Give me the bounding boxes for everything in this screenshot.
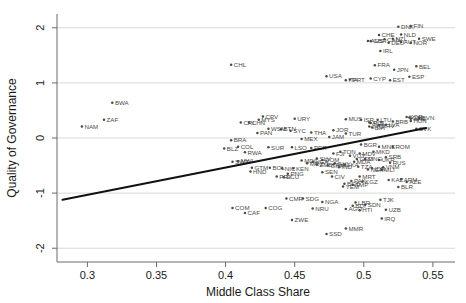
data-point-marker	[321, 171, 324, 174]
data-point-label: BRB	[395, 118, 408, 125]
data-point-label: MMR	[348, 225, 363, 232]
data-point: ZWE	[291, 216, 309, 223]
data-point-label: MDG	[304, 157, 319, 164]
data-point-label: BTN	[283, 125, 295, 132]
data-point-marker	[381, 217, 384, 220]
data-point-marker	[244, 151, 247, 154]
data-point-marker	[269, 167, 272, 170]
data-point: BLZ	[223, 145, 238, 152]
data-point-label: COG	[268, 204, 282, 211]
data-point-marker	[410, 117, 413, 120]
x-tick-label: 0.45	[284, 269, 305, 281]
y-tick-label: -2	[34, 243, 46, 253]
data-point-marker	[345, 132, 348, 135]
data-point-label: NZL	[395, 35, 407, 42]
data-point-label: SSD	[329, 230, 342, 237]
data-point-marker	[354, 201, 357, 204]
data-point-label: NAM	[84, 123, 98, 130]
data-points-layer: BWAZAFNAMCHLCPVPANSYCBRACOLBLZSURLSOPERM…	[81, 22, 436, 237]
data-point-marker	[392, 38, 395, 41]
data-point-marker	[285, 197, 288, 200]
data-point-label: NGA	[325, 198, 339, 205]
data-point-marker	[368, 125, 371, 128]
data-point-label: ROM	[395, 143, 409, 150]
data-point-label: URY	[297, 115, 310, 122]
data-point: LSO	[291, 144, 307, 151]
data-point-label: JOR	[336, 126, 349, 133]
data-point-marker	[231, 160, 234, 163]
data-point-marker	[345, 208, 348, 211]
data-point-label: CMR	[289, 195, 304, 202]
data-point-label: CYP	[373, 75, 386, 82]
data-point-marker	[275, 175, 278, 178]
data-point: URY	[293, 115, 310, 122]
data-point: EST	[389, 76, 405, 83]
data-point-marker	[231, 207, 234, 210]
data-point-label: MYS	[261, 116, 274, 123]
data-point-label: LSO	[295, 144, 308, 151]
data-point-marker	[310, 131, 313, 134]
data-point-label: ZAF	[107, 116, 119, 123]
data-point: MEX	[300, 135, 317, 142]
x-tick-label: 0.4	[218, 269, 233, 281]
data-point-marker	[311, 207, 314, 210]
data-point-marker	[332, 129, 335, 132]
data-point-marker	[328, 136, 331, 139]
data-point-marker	[392, 146, 395, 149]
y-tick-label: 0	[34, 135, 46, 141]
data-point-marker	[325, 75, 328, 78]
data-point-marker	[81, 125, 84, 128]
data-point: MMR	[345, 225, 364, 232]
data-point-label: FIN	[413, 22, 423, 29]
data-point-marker	[392, 120, 395, 123]
data-point-marker	[267, 146, 270, 149]
data-point-marker	[280, 128, 283, 131]
data-point: UZB	[385, 206, 401, 213]
y-axis-title: Quality of Governance	[5, 78, 19, 198]
data-point-marker	[300, 159, 303, 162]
data-point-marker	[397, 186, 400, 189]
data-point-label: IRQ	[384, 215, 395, 222]
data-point-marker	[291, 146, 294, 149]
data-point-label: USA	[329, 72, 343, 79]
data-point-label: FJI	[336, 150, 345, 157]
data-point-marker	[230, 63, 233, 66]
data-point-marker	[369, 40, 372, 43]
data-point-label: ARE	[413, 115, 426, 122]
x-tick-label: 0.3	[80, 269, 95, 281]
data-point-marker	[360, 143, 363, 146]
data-point-marker	[393, 68, 396, 71]
data-point: SDG	[302, 195, 319, 202]
data-point: NAM	[81, 123, 99, 130]
data-point-marker	[258, 119, 261, 122]
data-point-marker	[321, 201, 324, 204]
data-point-marker	[287, 173, 290, 176]
data-point-label: IRL	[383, 47, 393, 54]
data-point: USA	[325, 72, 342, 79]
data-point-label: ITA	[348, 76, 358, 83]
data-point-label: PNG	[290, 170, 304, 177]
data-point-marker	[267, 127, 270, 130]
data-point-label: THA	[314, 129, 327, 136]
data-point: CMR	[285, 195, 303, 202]
data-point-marker	[378, 159, 381, 162]
data-point: JAM	[328, 133, 344, 140]
data-point-marker	[369, 77, 372, 80]
data-point-marker	[230, 139, 233, 142]
data-point-marker	[345, 118, 348, 121]
data-point-label: HND	[253, 168, 267, 175]
data-point-marker	[385, 208, 388, 211]
data-point-label: ARM	[404, 176, 418, 183]
data-point-marker	[300, 138, 303, 141]
data-point-marker	[374, 64, 377, 67]
data-point-label: BEL	[419, 63, 431, 70]
y-tick-label: 2	[34, 25, 46, 31]
data-point-marker	[332, 152, 335, 155]
data-point-marker	[345, 227, 348, 230]
data-point-marker	[244, 212, 247, 215]
data-point-marker	[357, 165, 360, 168]
data-point-marker	[282, 176, 285, 179]
data-point-marker	[379, 50, 382, 53]
data-point-label: EST	[393, 76, 405, 83]
data-point: FRA	[374, 61, 391, 68]
